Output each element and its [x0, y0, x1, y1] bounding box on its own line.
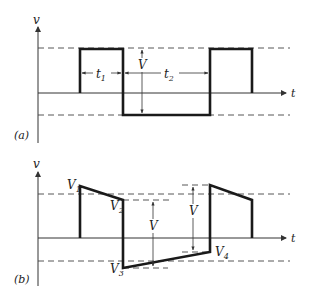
- waveform-figure: v t t1 t2 V (a) v t: [0, 0, 311, 298]
- panel-b-label: (b): [14, 273, 30, 286]
- v-amplitude-label-b-right: V: [189, 204, 199, 218]
- v-amplitude-label-b-left: V: [149, 219, 159, 233]
- t-axis-label-b: t: [291, 232, 296, 245]
- y-axis-label-b: v: [33, 157, 40, 171]
- panel-b: v t V V V1 V2 V3 V4 (b): [14, 157, 296, 286]
- v-amplitude-label-a: V: [138, 58, 148, 72]
- t-axis-label-a: t: [291, 87, 296, 100]
- v4-label: V4: [215, 245, 229, 261]
- v1-label: V1: [67, 178, 81, 194]
- y-axis-label-a: v: [33, 13, 40, 27]
- panel-a-label: (a): [14, 129, 29, 142]
- panel-a: v t t1 t2 V (a): [14, 13, 296, 143]
